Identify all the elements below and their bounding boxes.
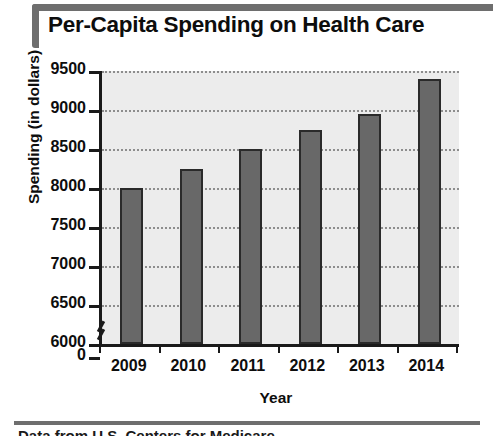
x-axis-tick [337,344,339,353]
gridline [102,110,459,112]
y-axis-tick-label: 8000 [50,177,86,195]
chart-figure: Per-Capita Spending on Health Care Spend… [0,0,493,436]
gridline [102,266,459,268]
plot-wrapper: 060006500700075008000850090009500 200920… [0,58,493,388]
y-axis-tick [89,305,100,308]
y-axis-tick-label: 9500 [50,60,86,78]
x-axis-tick [159,344,161,353]
gridline [102,71,459,73]
x-axis-tick-label: 2012 [278,357,338,375]
y-axis-tick-labels: 060006500700075008000850090009500 [0,58,86,358]
gridline [102,305,459,307]
y-axis-tick-label: 7000 [50,255,86,273]
footer-rule [14,421,480,425]
title-rule-top [32,4,493,11]
y-axis-tick-label: 6000 [50,333,86,351]
x-axis-tick-label: 2009 [99,357,159,375]
y-axis-tick [89,71,100,74]
bar [358,114,381,344]
chart-title-block: Per-Capita Spending on Health Care [28,4,493,50]
plot-area [99,71,459,344]
gridline [102,188,459,190]
x-axis-tick [218,344,220,353]
bar [299,130,322,345]
gridline [102,149,459,151]
source-note: Data from U.S. Centers for Medicare [18,427,478,436]
x-axis-tick [397,344,399,353]
x-axis-tick [456,344,458,353]
y-axis-tick [89,266,100,269]
y-axis-tick-label: 9000 [50,99,86,117]
y-axis-tick [89,188,100,191]
y-axis-tick [89,149,100,152]
bar [120,188,143,344]
page-title: Per-Capita Spending on Health Care [48,12,424,38]
x-axis-tick-label: 2011 [218,357,278,375]
y-axis-tick-label: 8500 [50,138,86,156]
bar [180,169,203,345]
bar [418,79,441,344]
y-axis-tick [89,110,100,113]
x-axis-title: Year [96,389,456,407]
x-axis-tick-label: 2014 [397,357,457,375]
x-axis-tick-label: 2010 [159,357,219,375]
y-axis-tick-label: 7500 [50,216,86,234]
y-axis-tick-label: 6500 [50,294,86,312]
bar [239,149,262,344]
y-axis-break-icon [92,320,108,340]
x-axis-tick-label: 2013 [337,357,397,375]
gridline [102,227,459,229]
x-axis-tick [278,344,280,353]
x-axis-tick [99,344,101,353]
y-axis-tick [89,227,100,230]
